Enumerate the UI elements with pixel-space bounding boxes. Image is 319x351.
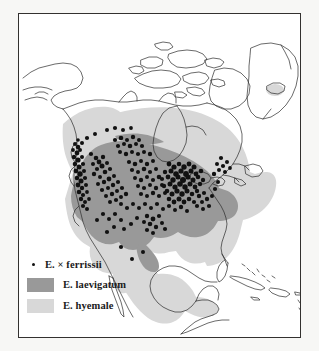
legend-label-laevigatum: E. laevigatum	[63, 277, 126, 293]
map-frame: E. × ferrissii E. laevigatum E. hyemale	[18, 13, 301, 338]
map-legend: E. × ferrissii E. laevigatum E. hyemale	[23, 257, 203, 319]
dot-symbol-icon	[32, 263, 35, 266]
legend-item-hyemale: E. hyemale	[23, 298, 203, 317]
legend-item-laevigatum: E. laevigatum	[23, 277, 203, 296]
legend-label-ferrissii: E. × ferrissii	[45, 257, 102, 273]
distribution-map-figure: E. × ferrissii E. laevigatum E. hyemale	[0, 0, 319, 351]
swatch-laevigatum-icon	[27, 278, 54, 292]
legend-label-hyemale: E. hyemale	[63, 298, 114, 314]
swatch-hyemale-icon	[27, 299, 54, 313]
legend-item-ferrissii: E. × ferrissii	[23, 257, 203, 276]
